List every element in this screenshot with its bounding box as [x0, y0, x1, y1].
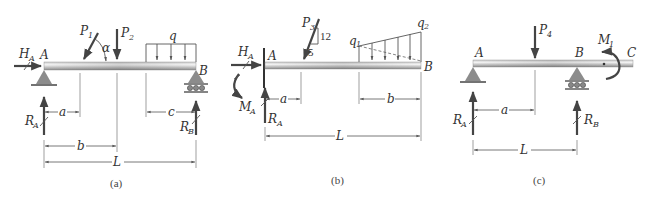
svg-text:A: A: [32, 121, 39, 130]
distributed-load-q: q: [146, 29, 196, 62]
svg-text:R: R: [267, 112, 277, 126]
distributed-load-q1-q2: q 1 q 2: [349, 16, 429, 62]
reaction-r-b: R B: [573, 101, 599, 135]
dimension-a: a: [474, 103, 534, 117]
svg-text:1: 1: [88, 31, 93, 40]
label-point-b: B: [198, 64, 208, 78]
svg-text:1: 1: [356, 40, 361, 49]
dimension-b: b: [360, 92, 420, 106]
svg-text:A: A: [28, 54, 35, 63]
force-h-a: H A A: [14, 47, 49, 70]
pin-support-a-icon: [31, 70, 57, 85]
label-point-a: A: [267, 49, 277, 63]
svg-text:B: B: [592, 120, 599, 129]
label-point-b: B: [423, 60, 433, 74]
force-p3: P 3 12 5: [301, 16, 331, 59]
roller-support-b-icon: [565, 67, 589, 89]
moment-m1: M 1: [597, 33, 619, 79]
force-h-a: H A: [231, 45, 261, 69]
label-point-a: A: [474, 46, 484, 60]
svg-text:L: L: [519, 143, 528, 157]
reaction-r-a: R A: [452, 92, 477, 135]
dimension-a: a: [266, 92, 300, 106]
svg-text:A: A: [39, 48, 49, 62]
svg-text:c: c: [168, 105, 175, 119]
svg-text:A: A: [247, 52, 254, 61]
panel-c: A B C P 4 M 1: [452, 23, 636, 187]
label-point-b: B: [574, 46, 584, 60]
panel-a: H A A P 1 α P 2 q B: [14, 24, 208, 190]
svg-text:A: A: [460, 120, 467, 129]
svg-text:2: 2: [128, 33, 134, 42]
moment-m-a: M A: [234, 74, 256, 116]
pin-support-a-icon: [460, 67, 486, 82]
svg-text:a: a: [59, 105, 66, 119]
svg-text:a: a: [501, 103, 508, 117]
dimension-l: L: [266, 129, 420, 143]
caption-b: (b): [331, 174, 344, 187]
svg-text:A: A: [249, 107, 256, 116]
svg-text:2: 2: [423, 22, 429, 31]
svg-text:L: L: [335, 129, 344, 143]
svg-text:B: B: [187, 127, 194, 136]
svg-text:R: R: [583, 113, 593, 127]
svg-text:α: α: [102, 41, 110, 55]
force-p2: P 2: [117, 26, 134, 59]
dimension-c: c: [147, 105, 195, 119]
reaction-r-b: R B: [179, 101, 200, 136]
caption-a: (a): [110, 177, 123, 190]
caption-c: (c): [533, 174, 546, 187]
svg-text:A: A: [276, 119, 283, 128]
panel-b: A B H A M A R A P 3 12: [231, 16, 433, 187]
svg-text:L: L: [112, 155, 121, 169]
svg-text:3: 3: [310, 23, 315, 32]
svg-text:1: 1: [609, 40, 614, 49]
svg-text:q: q: [169, 29, 177, 43]
slope-rise-12: 12: [320, 30, 331, 42]
label-point-c: C: [627, 46, 636, 60]
svg-text:a: a: [280, 92, 287, 106]
dimension-l: L: [474, 143, 576, 157]
dimension-a: a: [45, 105, 79, 119]
svg-text:b: b: [77, 139, 85, 153]
beam-diagrams-figure: H A A P 1 α P 2 q B: [0, 0, 646, 198]
svg-text:4: 4: [546, 30, 552, 39]
svg-text:b: b: [387, 92, 395, 106]
force-p1: P 1 α: [79, 24, 110, 61]
slope-run-5: 5: [308, 46, 314, 58]
force-p4: P 4: [535, 23, 552, 58]
reaction-r-a: R A: [24, 97, 48, 135]
dimension-b: b: [45, 139, 116, 153]
dimension-l: L: [45, 155, 195, 169]
